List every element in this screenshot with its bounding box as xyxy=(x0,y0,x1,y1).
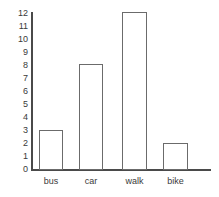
y-axis-line xyxy=(31,12,33,171)
y-tick-label: 7 xyxy=(14,74,28,83)
y-tick-label: 10 xyxy=(14,35,28,44)
bar-chart: 12 11 10 9 8 7 6 5 4 3 2 1 0 bus car wal… xyxy=(0,0,219,197)
y-tick-label: 3 xyxy=(14,126,28,135)
x-tick-label-bus: bus xyxy=(39,176,63,186)
x-tick-label-car: car xyxy=(79,176,103,186)
y-tick-label: 11 xyxy=(14,22,28,31)
y-tick-label: 4 xyxy=(14,113,28,122)
bar-bus xyxy=(39,130,63,170)
y-tick-label: 6 xyxy=(14,87,28,96)
y-tick-label: 2 xyxy=(14,139,28,148)
x-tick-label-walk: walk xyxy=(122,176,147,186)
y-tick-label: 9 xyxy=(14,48,28,57)
bar-walk xyxy=(122,12,147,170)
y-tick-label: 0 xyxy=(14,165,28,174)
bar-bike xyxy=(163,143,188,170)
y-tick-label: 5 xyxy=(14,100,28,109)
x-tick-label-bike: bike xyxy=(163,176,188,186)
y-tick-label: 12 xyxy=(14,9,28,18)
bar-car xyxy=(79,64,103,170)
y-tick-label: 1 xyxy=(14,152,28,161)
y-tick-label: 8 xyxy=(14,61,28,70)
y-axis-tick-labels: 12 11 10 9 8 7 6 5 4 3 2 1 0 xyxy=(14,0,28,197)
plot-area: 12 11 10 9 8 7 6 5 4 3 2 1 0 bus car wal… xyxy=(0,0,219,197)
